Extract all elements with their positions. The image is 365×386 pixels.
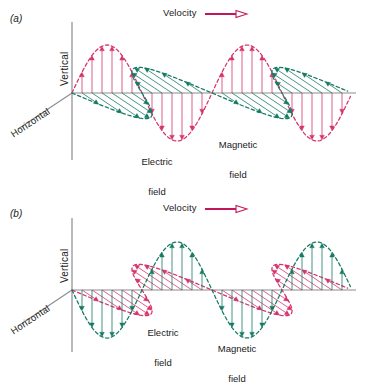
panel-tag-b: (b): [10, 209, 22, 220]
velocity-arrow-b: [205, 205, 247, 212]
magnetic-field-label-b: Magnetic field: [206, 323, 268, 386]
magnetic-field-line2-b: field: [206, 374, 268, 384]
magnetic-field-line2-a: field: [207, 170, 269, 180]
panel-a: (a) Velocity Vertical Horizontal Electri…: [0, 0, 365, 181]
electric-field-line2-b: field: [134, 358, 192, 368]
electric-field-line1-b: Electric: [134, 328, 192, 338]
electric-field-line1-a: Electric: [128, 157, 186, 167]
axis-vertical-label-a: Vertical: [60, 52, 71, 86]
axis-vertical-label-b: Vertical: [60, 249, 71, 283]
magnetic-field-line1-b: Magnetic: [206, 344, 268, 354]
velocity-label-a: Velocity: [163, 8, 197, 18]
electric-field-label-b: Electric field: [134, 307, 192, 386]
panel-tag-a: (a): [10, 14, 22, 25]
magnetic-field-line1-a: Magnetic: [207, 140, 269, 150]
velocity-arrow-a: [205, 10, 247, 17]
velocity-label-b: Velocity: [163, 203, 197, 213]
panel-b: (b) Velocity Vertical Horizontal Electri…: [0, 182, 365, 363]
axes-a: [18, 22, 356, 160]
